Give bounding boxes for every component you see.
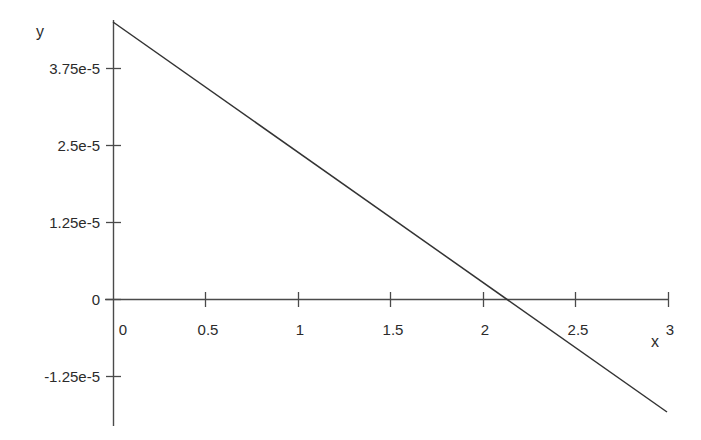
x-tick-label-0: 0 (119, 322, 127, 337)
plot-canvas: y x 3.75e-5 2.5e-5 1.25e-5 0 -1.25e-5 0 … (0, 0, 701, 440)
y-axis-label: y (36, 24, 44, 40)
y-tick-label-2.5e-5: 2.5e-5 (0, 138, 100, 153)
y-tick-label-3.75e-5: 3.75e-5 (0, 61, 100, 76)
y-tick-label-0: 0 (0, 292, 100, 307)
y-tick-label-neg-1.25e-5: -1.25e-5 (0, 369, 100, 384)
x-tick-label-1.5: 1.5 (383, 322, 404, 337)
x-tick-label-0.5: 0.5 (198, 322, 219, 337)
plot-graphics (0, 0, 701, 440)
x-tick-label-2: 2 (481, 322, 489, 337)
x-tick-label-2.5: 2.5 (568, 322, 589, 337)
x-tick-label-3: 3 (666, 322, 674, 337)
x-tick-label-1: 1 (296, 322, 304, 337)
x-axis-label: x (651, 334, 659, 350)
y-tick-label-1.25e-5: 1.25e-5 (0, 215, 100, 230)
data-line-series-0 (113, 22, 667, 412)
